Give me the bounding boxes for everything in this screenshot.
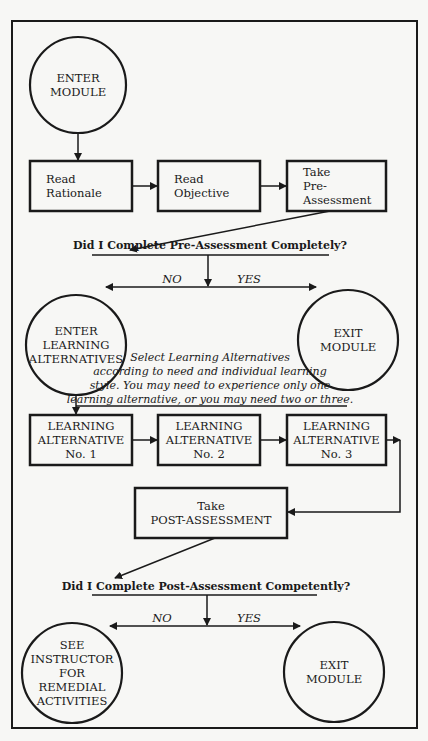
note-line: according to need and individual learnin… [93, 365, 326, 378]
node-label: LEARNING [48, 419, 115, 433]
node-label: ACTIVITIES [36, 694, 108, 708]
node-label: ALTERNATIVE [292, 433, 379, 447]
node-exit-module-2: EXITMODULE [284, 622, 384, 722]
node-learning-alternative-1: LEARNINGALTERNATIVENo. 1 [30, 415, 132, 465]
node-label: Take [303, 165, 331, 179]
decision-question: Did I Complete Post-Assessment Competent… [62, 580, 350, 593]
node-label: Read [46, 172, 76, 186]
flowchart-canvas: ENTERMODULEReadRationaleReadObjectiveTak… [0, 0, 428, 741]
node-label: MODULE [50, 85, 106, 99]
connector-arrow [115, 538, 215, 578]
module-flowchart: ENTERMODULEReadRationaleReadObjectiveTak… [0, 0, 428, 741]
node-label: ALTERNATIVE [37, 433, 124, 447]
node-label: EXIT [320, 658, 349, 672]
node-read-rationale: ReadRationale [30, 161, 132, 211]
node-take-pre-assessment: TakePre-Assessment [287, 161, 386, 211]
decision-question: Did I Complete Pre-Assessment Completely… [73, 239, 347, 252]
node-enter-module: ENTERMODULE [30, 37, 126, 133]
note-line: learning alternative, or you may need tw… [67, 393, 353, 406]
node-label: Take [197, 499, 225, 513]
node-label: ENTER [56, 71, 100, 85]
branch-label-pre-yes: YES [237, 272, 261, 286]
node-label: MODULE [306, 672, 362, 686]
node-label: INSTRUCTOR [30, 652, 113, 666]
node-label: No. 1 [65, 447, 96, 461]
node-learning-alternative-2: LEARNINGALTERNATIVENo. 2 [158, 415, 260, 465]
node-label: Read [174, 172, 204, 186]
node-label: FOR [59, 666, 85, 680]
node-label: POST-ASSESSMENT [151, 513, 272, 527]
node-see-instructor: SEEINSTRUCTORFORREMEDIALACTIVITIES [22, 623, 122, 723]
node-label: Assessment [302, 193, 372, 207]
note-line: Select Learning Alternatives [130, 351, 290, 364]
node-label: LEARNING [176, 419, 243, 433]
node-label: LEARNING [303, 419, 370, 433]
node-label: MODULE [320, 340, 376, 354]
node-label: No. 2 [193, 447, 224, 461]
node-label: Pre- [303, 179, 327, 193]
node-take-post-assessment: TakePOST-ASSESSMENT [135, 488, 287, 538]
node-label: REMEDIAL [39, 680, 106, 694]
node-label: EXIT [334, 326, 363, 340]
node-read-objective: ReadObjective [158, 161, 260, 211]
node-label: ALTERNATIVES [28, 352, 123, 366]
node-label: ENTER [54, 324, 98, 338]
node-label: Rationale [46, 186, 102, 200]
node-label: SEE [60, 638, 85, 652]
node-learning-alternative-3: LEARNINGALTERNATIVENo. 3 [287, 415, 386, 465]
branch-label-pre-no: NO [161, 272, 182, 286]
node-label: No. 3 [321, 447, 352, 461]
node-label: ALTERNATIVE [165, 433, 252, 447]
node-label: LEARNING [43, 338, 110, 352]
node-label: Objective [174, 186, 229, 200]
branch-label-post-yes: YES [237, 611, 261, 625]
branch-label-post-no: NO [151, 611, 172, 625]
note-line: style. You may need to experience only o… [90, 379, 331, 392]
